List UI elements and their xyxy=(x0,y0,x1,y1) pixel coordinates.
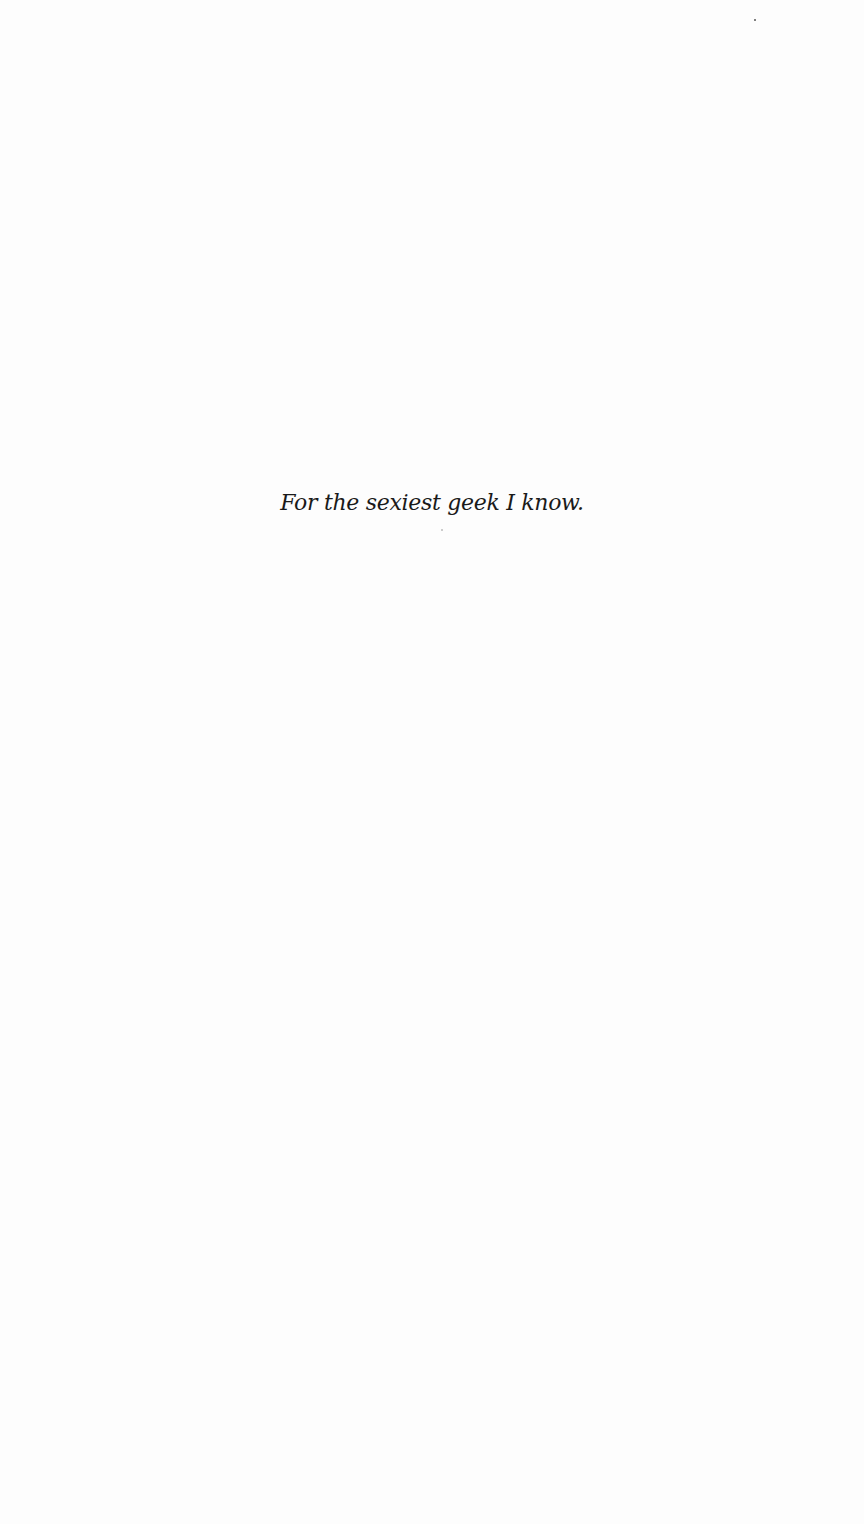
scan-speck xyxy=(754,19,756,21)
scan-speck xyxy=(441,529,443,531)
dedication-text: For the sexiest geek I know. xyxy=(0,487,864,519)
book-page: For the sexiest geek I know. xyxy=(0,0,864,1524)
